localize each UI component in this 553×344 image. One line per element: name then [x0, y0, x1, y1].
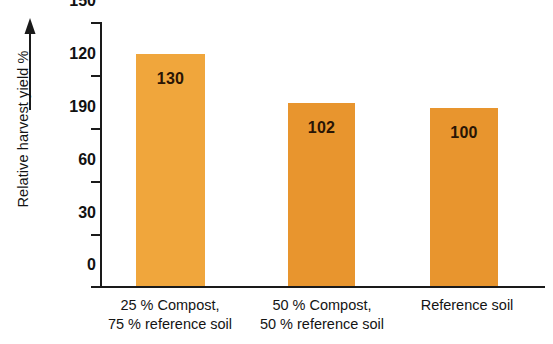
- x-axis-line: [100, 286, 545, 288]
- y-tick-0: [91, 286, 100, 288]
- x-label-line2: 75 % reference soil: [90, 315, 250, 334]
- plot-area: 130 102 100: [100, 22, 545, 288]
- y-axis-line: [100, 22, 102, 288]
- bar-value-label: 130: [136, 70, 205, 88]
- x-label-line1: 50 % Compost,: [272, 297, 371, 313]
- y-tick-label-30: 30: [50, 205, 96, 221]
- x-label-line1: 25 % Compost,: [120, 297, 219, 313]
- bar-value-label: 102: [288, 119, 355, 137]
- bar-chart-figure: Relative harvest yield % 130 102 100 150…: [0, 0, 553, 344]
- bar-value-label: 100: [430, 124, 498, 142]
- y-tick-label-0: 0: [50, 257, 96, 273]
- bar-50-compost: 102: [288, 103, 355, 286]
- y-tick-label-group: 150 120 190 60 30 0: [46, 0, 96, 266]
- y-tick-label-60: 60: [50, 152, 96, 168]
- y-axis-title: Relative harvest yield %: [15, 29, 37, 229]
- x-label-line2: 50 % reference soil: [242, 315, 402, 334]
- bar-reference-soil: 100: [430, 108, 498, 286]
- x-label-line1: Reference soil: [421, 297, 514, 313]
- x-label-50-compost: 50 % Compost, 50 % reference soil: [242, 296, 402, 334]
- y-tick-label-120: 120: [50, 46, 96, 62]
- x-label-25-compost: 25 % Compost, 75 % reference soil: [90, 296, 250, 334]
- x-label-reference-soil: Reference soil: [392, 296, 542, 315]
- y-tick-label-90: 190: [50, 99, 96, 115]
- bar-25-compost: 130: [136, 54, 205, 286]
- y-tick-label-150: 150: [50, 0, 96, 9]
- x-axis-label-group: 25 % Compost, 75 % reference soil 50 % C…: [100, 296, 553, 344]
